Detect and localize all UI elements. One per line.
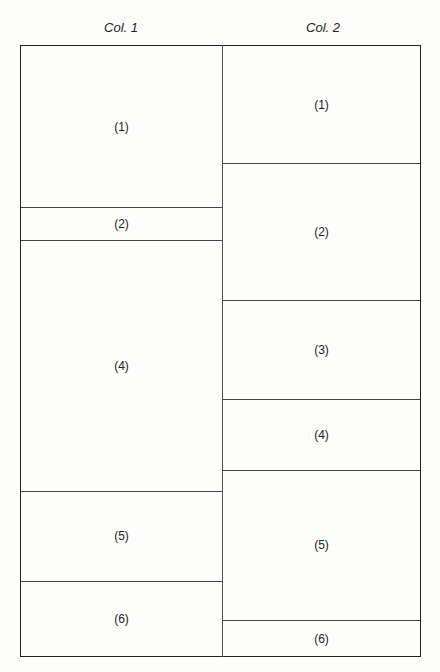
column-1-header: Col. 1 — [20, 20, 222, 35]
col2-cell: (5) — [223, 470, 420, 620]
col1-cell: (5) — [21, 491, 222, 581]
col1-cell: (6) — [21, 581, 222, 657]
row-divider — [223, 399, 420, 400]
column-2-header: Col. 2 — [222, 20, 424, 35]
row-divider — [223, 470, 420, 471]
row-divider — [21, 581, 222, 582]
col2-cell: (3) — [223, 300, 420, 399]
col2-cell: (6) — [223, 620, 420, 657]
row-divider — [223, 620, 420, 621]
col1-cell: (2) — [21, 207, 222, 240]
row-divider — [21, 207, 222, 208]
row-divider — [21, 240, 222, 241]
row-divider — [21, 491, 222, 492]
row-divider — [223, 300, 420, 301]
col2-cell: (2) — [223, 163, 420, 300]
col1-cell: (4) — [21, 240, 222, 491]
col1-cell: (1) — [21, 46, 222, 207]
col2-cell: (4) — [223, 399, 420, 470]
row-divider — [223, 163, 420, 164]
col2-cell: (1) — [223, 46, 420, 163]
